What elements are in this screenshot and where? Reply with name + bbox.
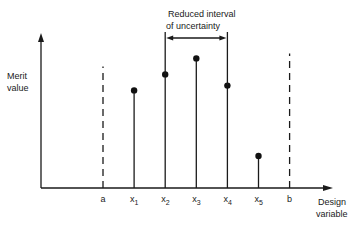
interval-right-arrowhead-icon bbox=[219, 36, 226, 41]
sample-point-x1 bbox=[131, 87, 137, 93]
x-axis-arrowhead-icon bbox=[323, 185, 333, 191]
sample-label-x3: x3 bbox=[192, 194, 201, 206]
interval-label-line2: of uncertainty bbox=[166, 21, 221, 31]
x-axis-label-line1: Design bbox=[318, 197, 346, 207]
sample-label-subscript: 1 bbox=[135, 199, 139, 206]
sample-label-subscript: 5 bbox=[259, 199, 263, 206]
marks-group: abx1x2x3x4x5 bbox=[101, 32, 293, 206]
bound-label-a: a bbox=[101, 194, 106, 204]
sample-label-subscript: 3 bbox=[197, 199, 201, 206]
sample-label-subscript: 4 bbox=[228, 199, 232, 206]
sample-point-x3 bbox=[193, 55, 199, 61]
sample-label-x2: x2 bbox=[161, 194, 170, 206]
sample-point-x5 bbox=[255, 153, 261, 159]
x-axis-label-line2: variable bbox=[316, 209, 348, 219]
sample-label-x5: x5 bbox=[255, 194, 264, 206]
bound-label-b: b bbox=[287, 194, 292, 204]
y-axis-label-line1: Merit bbox=[7, 71, 27, 81]
merit-value-diagram: Merit value Design variable Reduced inte… bbox=[0, 0, 362, 225]
sample-label-subscript: 2 bbox=[166, 199, 170, 206]
y-axis bbox=[38, 33, 44, 188]
y-axis-label-line2: value bbox=[7, 83, 29, 93]
y-axis-arrowhead-icon bbox=[38, 33, 44, 42]
interval-label-line1: Reduced interval bbox=[168, 9, 236, 19]
sample-label-x4: x4 bbox=[223, 194, 232, 206]
interval-left-arrowhead-icon bbox=[166, 36, 173, 41]
sample-label-x1: x1 bbox=[130, 194, 139, 206]
